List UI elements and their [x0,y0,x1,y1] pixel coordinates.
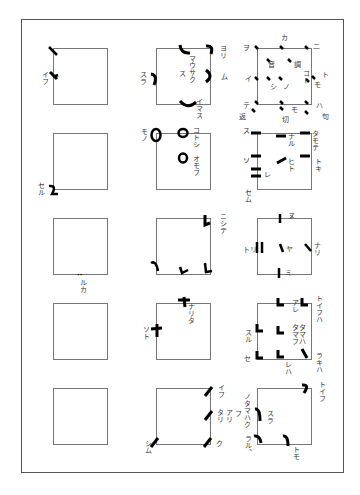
label: ニシテ [219,213,226,234]
label: フ [235,411,242,418]
label: イマス [195,98,202,119]
label: トイフ [318,381,325,402]
label: セ [244,356,251,363]
label: ノ [283,84,290,91]
label: ラキハ [315,352,322,373]
stroke-mark [48,185,60,197]
label: タモテ [311,130,318,151]
label: セム [244,189,251,203]
label: トイフハ [315,295,322,323]
label: モ [291,107,298,114]
label: レハ [284,361,291,375]
diagram-box-r5c1 [53,388,108,445]
label: ラル、 [244,435,251,456]
label: トモ [292,446,299,460]
label: ヌ [288,213,295,220]
label: ヨリ [219,45,226,59]
stroke-marks [150,384,220,454]
label: ム [221,74,228,81]
label: マウサク [188,55,195,83]
label: ヤ [286,246,293,253]
label: モノ [140,128,147,142]
label: イ [245,76,252,83]
stroke-mark [48,46,60,86]
label: ニ [313,44,320,51]
stroke-marks [250,297,325,363]
label: スル [244,329,251,343]
label: ナル [287,133,294,147]
label: スラ [139,71,146,85]
label: ヲ [243,45,250,52]
label: 返 [239,114,246,121]
label: シ [270,84,277,91]
stroke-marks [150,213,220,278]
label: コト [302,70,309,84]
stroke-marks [150,44,220,112]
label: ミ [285,270,292,277]
label: タリ [216,409,223,423]
label: アリ [225,409,232,423]
label: シム [144,440,151,454]
label: トキ [314,158,321,172]
diagram-box-r1c1 [53,48,108,105]
label: ソト [142,326,149,340]
label: テ [243,103,250,110]
label: ク [216,441,223,448]
label: スラ [266,410,273,424]
label: カ [281,35,288,42]
diagram-box-r3c1 [53,218,108,275]
label: 調 [294,62,301,69]
dot-marks: ·· [77,272,82,279]
label: 切 [282,117,289,124]
stroke-marks [148,297,218,337]
label: 句 [322,114,329,121]
diagram-box-r2c1 [53,133,108,190]
stroke-marks [252,383,322,453]
label: ス [243,128,250,135]
label: ナリ [313,242,320,256]
label: アレ [291,299,298,313]
label: コトシ [192,127,199,148]
label: モ [314,82,321,89]
label: レ [264,172,271,179]
label: 音 [268,62,275,69]
label: イフ [217,384,224,398]
label: トリ [243,247,257,254]
label: イフ [41,71,48,85]
label: フハ [292,339,306,346]
label: ト [322,72,329,79]
diagram-box-r4c1 [53,303,108,360]
label: ヒト [287,158,294,172]
label: ノタマハク [243,393,250,428]
label: ルカ [79,279,86,293]
label: オモフ [192,155,199,176]
label: ナリタ [187,303,194,324]
label: ス [178,70,185,77]
label: セル [37,182,44,196]
label: ソ [243,158,250,165]
label: ハ [316,103,323,110]
